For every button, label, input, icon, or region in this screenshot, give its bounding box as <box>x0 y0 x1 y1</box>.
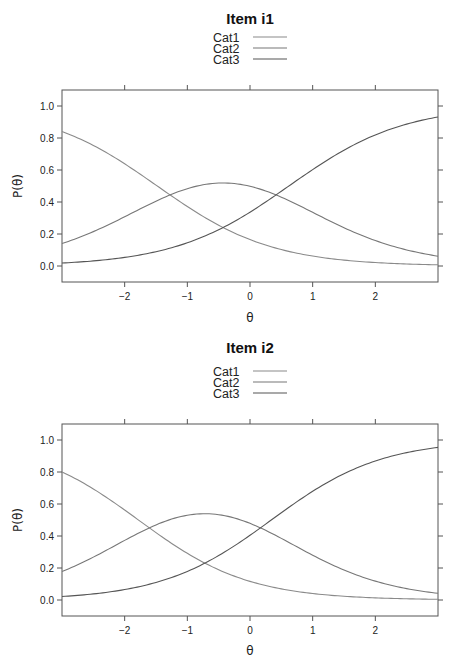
x-tick-label: 2 <box>373 625 379 636</box>
y-tick-label: 0.6 <box>40 499 54 510</box>
x-axis-label: θ <box>246 311 253 325</box>
legend-label-cat3: Cat3 <box>213 387 239 401</box>
chart-title: Item i1 <box>226 10 274 27</box>
chart-title: Item i2 <box>226 339 274 356</box>
curves <box>62 117 438 265</box>
x-axis-ticks: −2−1012 <box>119 419 379 636</box>
y-tick-label: 0.8 <box>40 467 54 478</box>
y-tick-label: 0.0 <box>40 261 54 272</box>
x-tick-label: 1 <box>310 291 316 302</box>
x-tick-label: 0 <box>247 291 253 302</box>
curve-cat2 <box>62 183 438 256</box>
y-tick-label: 0.6 <box>40 165 54 176</box>
y-tick-label: 0.2 <box>40 229 54 240</box>
curves <box>62 447 438 599</box>
y-axis-ticks: 0.00.20.40.60.81.0 <box>40 101 443 272</box>
chart-panel-item-i2: Item i2 Cat1 Cat2 Cat3 −2−1012 0.00.20.4… <box>0 329 458 658</box>
x-axis-label: θ <box>246 644 253 658</box>
legend: Cat1 Cat2 Cat3 <box>213 365 287 401</box>
curve-cat3 <box>62 447 438 596</box>
y-tick-label: 0.4 <box>40 197 54 208</box>
y-tick-label: 0.8 <box>40 133 54 144</box>
plot-frame <box>62 424 438 616</box>
x-tick-label: −2 <box>119 291 131 302</box>
y-tick-label: 0.4 <box>40 531 54 542</box>
y-tick-label: 1.0 <box>40 435 54 446</box>
legend: Cat1 Cat2 Cat3 <box>213 31 287 67</box>
y-tick-label: 1.0 <box>40 101 54 112</box>
x-axis-ticks: −2−1012 <box>119 85 379 302</box>
chart-panel-item-i1: Item i1 Cat1 Cat2 Cat3 −2−1012 0.00.20.4… <box>0 0 458 329</box>
y-axis-label: P(θ) <box>11 508 25 532</box>
y-tick-label: 0.2 <box>40 563 54 574</box>
y-tick-label: 0.0 <box>40 595 54 606</box>
chart-svg: Item i2 Cat1 Cat2 Cat3 −2−1012 0.00.20.4… <box>0 329 458 658</box>
x-tick-label: −1 <box>182 625 194 636</box>
chart-svg: Item i1 Cat1 Cat2 Cat3 −2−1012 0.00.20.4… <box>0 0 458 329</box>
x-tick-label: −1 <box>182 291 194 302</box>
x-tick-label: 0 <box>247 625 253 636</box>
curve-cat1 <box>62 131 438 264</box>
x-tick-label: −2 <box>119 625 131 636</box>
x-tick-label: 1 <box>310 625 316 636</box>
curve-cat3 <box>62 117 438 263</box>
y-axis-label: P(θ) <box>11 174 25 198</box>
legend-label-cat3: Cat3 <box>213 53 239 67</box>
x-tick-label: 2 <box>373 291 379 302</box>
